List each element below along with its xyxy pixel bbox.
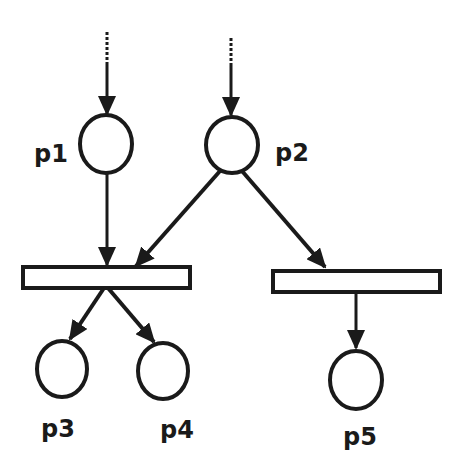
place-p4 (138, 343, 188, 399)
transition-t2 (273, 271, 440, 292)
place-p1 (80, 115, 132, 173)
place-label-p1: p1 (34, 140, 68, 168)
place-p3 (37, 341, 87, 397)
petri-net-diagram: p1 p2 p3 p4 p5 (0, 0, 464, 471)
arc-t1-p4 (108, 288, 154, 342)
place-label-p4: p4 (160, 416, 194, 444)
transition-t1 (23, 267, 190, 288)
place-p2 (206, 117, 258, 173)
place-label-p5: p5 (343, 423, 377, 451)
arc-p2-t1 (136, 171, 220, 266)
arc-t1-p3 (70, 288, 104, 339)
place-label-p3: p3 (41, 415, 75, 443)
place-label-p2: p2 (275, 139, 309, 167)
place-p5 (330, 351, 382, 409)
arc-p2-t2 (242, 171, 325, 267)
